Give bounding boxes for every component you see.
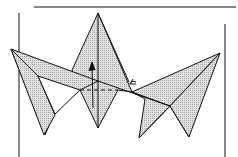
center-spike <box>72 13 132 128</box>
curved-arrow-icon <box>130 79 136 84</box>
right-wing <box>132 53 220 138</box>
origami-model <box>11 13 220 138</box>
origami-diagram <box>0 0 238 157</box>
